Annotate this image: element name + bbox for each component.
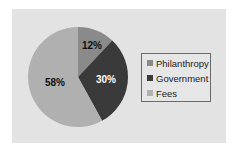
legend-label: Government <box>156 73 208 84</box>
legend-item-philanthropy: Philanthropy <box>147 56 209 70</box>
legend-item-fees: Fees <box>147 86 177 100</box>
swatch-philanthropy <box>147 60 153 66</box>
legend-label: Fees <box>156 88 177 99</box>
legend-label: Philanthropy <box>156 58 209 69</box>
swatch-government <box>147 75 153 81</box>
label-philanthropy: 12% <box>82 40 102 51</box>
swatch-fees <box>147 90 153 96</box>
label-government: 30% <box>96 74 116 85</box>
label-fees: 58% <box>45 77 65 88</box>
legend-item-government: Government <box>147 71 208 85</box>
legend: Philanthropy Government Fees <box>141 53 211 102</box>
